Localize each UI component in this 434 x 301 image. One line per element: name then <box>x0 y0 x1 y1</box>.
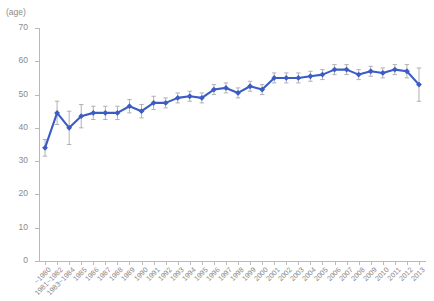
y-tick-label: 30 <box>0 156 28 165</box>
error-bar <box>103 106 107 119</box>
error-bar <box>79 105 83 128</box>
data-point-marker <box>127 103 133 109</box>
data-point-marker <box>66 125 72 131</box>
data-point-marker <box>102 110 108 116</box>
error-bar <box>369 66 373 76</box>
error-bar <box>200 93 204 103</box>
data-point-marker <box>308 73 314 79</box>
data-point-marker <box>368 68 374 74</box>
error-bar <box>163 98 167 108</box>
line-series-plot <box>0 0 434 301</box>
y-tick-label: 40 <box>0 123 28 132</box>
error-bar <box>260 85 264 95</box>
error-bar <box>212 85 216 95</box>
data-point-marker <box>271 75 277 81</box>
error-bar <box>332 65 336 75</box>
data-point-marker <box>211 87 217 93</box>
data-point-marker <box>115 110 121 116</box>
data-point-marker <box>320 72 326 78</box>
y-tick-mark <box>35 194 39 195</box>
data-point-marker <box>235 90 241 96</box>
y-tick-mark <box>35 95 39 96</box>
y-tick-mark <box>35 161 39 162</box>
error-bar <box>236 88 240 98</box>
error-bar <box>248 81 252 91</box>
data-point-marker <box>283 75 289 81</box>
data-point-marker <box>392 67 398 73</box>
error-bar <box>43 140 47 157</box>
error-bar <box>188 91 192 101</box>
data-point-marker <box>139 108 145 114</box>
data-point-marker <box>78 113 84 119</box>
error-bar <box>381 68 385 78</box>
y-tick-mark <box>35 228 39 229</box>
y-tick-label: 10 <box>0 223 28 232</box>
data-point-marker <box>199 95 205 101</box>
y-tick-label: 70 <box>0 23 28 32</box>
data-point-marker <box>416 82 422 88</box>
error-bar <box>344 65 348 75</box>
error-bar <box>115 106 119 119</box>
data-point-marker <box>380 70 386 76</box>
x-axis-line <box>39 261 426 262</box>
data-point-marker <box>90 110 96 116</box>
error-bar <box>176 93 180 103</box>
error-bar <box>151 96 155 109</box>
error-bar <box>55 101 59 124</box>
y-tick-label: 20 <box>0 189 28 198</box>
y-tick-mark <box>35 261 39 262</box>
error-bar <box>224 83 228 93</box>
y-tick-mark <box>35 28 39 29</box>
error-bar <box>393 65 397 75</box>
error-bar <box>67 111 71 144</box>
y-tick-label: 50 <box>0 90 28 99</box>
series-line <box>45 70 419 148</box>
error-bar <box>320 70 324 80</box>
data-point-marker <box>175 95 181 101</box>
data-point-marker <box>259 87 265 93</box>
data-point-marker <box>356 72 362 78</box>
y-axis-line <box>39 28 40 262</box>
error-bar <box>417 68 421 101</box>
y-tick-label: 60 <box>0 56 28 65</box>
data-point-marker <box>151 100 157 106</box>
error-bar <box>127 100 131 113</box>
error-bar <box>356 70 360 80</box>
data-point-marker <box>187 93 193 99</box>
error-bar <box>272 73 276 83</box>
data-point-marker <box>404 68 410 74</box>
data-point-marker <box>42 145 48 151</box>
data-point-marker <box>163 100 169 106</box>
data-point-marker <box>332 67 338 73</box>
error-bar <box>296 73 300 83</box>
data-point-marker <box>344 67 350 73</box>
y-tick-mark <box>35 128 39 129</box>
error-bar <box>284 73 288 83</box>
data-point-marker <box>223 85 229 91</box>
y-tick-label: 0 <box>0 256 28 265</box>
y-tick-mark <box>35 61 39 62</box>
data-point-marker <box>54 110 60 116</box>
error-bar <box>405 65 409 78</box>
data-point-marker <box>247 83 253 89</box>
error-bar <box>308 71 312 81</box>
y-axis-unit-label: (age) <box>6 7 26 17</box>
error-bar <box>91 106 95 119</box>
data-point-marker <box>295 75 301 81</box>
error-bar <box>139 105 143 118</box>
chart-container: (age) 010203040506070 ~19801981~19821983… <box>0 0 434 301</box>
